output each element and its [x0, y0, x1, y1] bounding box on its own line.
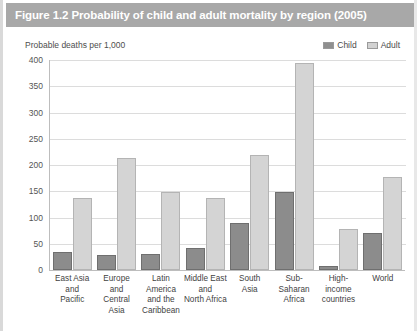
bar-group — [272, 60, 316, 270]
x-category-label-line: countries — [316, 295, 360, 306]
legend-label-adult: Adult — [381, 40, 400, 50]
x-category-label-line: and — [183, 285, 227, 296]
figure-container: Figure 1.2 Probability of child and adul… — [0, 0, 417, 331]
legend-swatch-adult-icon — [367, 42, 378, 49]
bar-group — [228, 60, 272, 270]
y-axis-title: Probable deaths per 1,000 — [25, 40, 125, 50]
bar-adult — [117, 158, 136, 270]
bar-child — [141, 254, 160, 270]
y-tick-label: 200 — [17, 160, 43, 170]
bar-adult — [383, 177, 402, 270]
x-category-label: LatinAmericaand theCaribbean — [139, 274, 183, 316]
y-tick-label: 300 — [17, 108, 43, 118]
bar-groups — [50, 60, 405, 270]
bar-group — [316, 60, 360, 270]
y-tick-label: 50 — [17, 239, 43, 249]
x-category-label-line: America — [139, 285, 183, 296]
x-category-label-line: Middle East — [183, 274, 227, 285]
x-category-label-line: and — [50, 285, 94, 296]
y-tick-label: 350 — [17, 81, 43, 91]
x-category-label-line: Africa — [272, 295, 316, 306]
bar-group — [183, 60, 227, 270]
bar-group — [139, 60, 183, 270]
x-category-label-line: Latin — [139, 274, 183, 285]
bar-child — [363, 233, 382, 270]
x-category-label-line: Asia — [94, 306, 138, 317]
x-category-label-line: World — [361, 274, 405, 285]
y-tick-label: 150 — [17, 186, 43, 196]
legend-swatch-child-icon — [323, 42, 334, 49]
x-category-label-line: Pacific — [50, 295, 94, 306]
x-category-label: Sub-SaharanAfrica — [272, 274, 316, 306]
x-category-label-line: Saharan — [272, 285, 316, 296]
x-category-label-line: Europe — [94, 274, 138, 285]
x-category-label: Middle EastandNorth Africa — [183, 274, 227, 306]
chart-legend: Child Adult — [323, 40, 400, 50]
x-category-label: East AsiaandPacific — [50, 274, 94, 306]
y-tick-label: 0 — [17, 265, 43, 275]
x-category-label-line: income — [316, 285, 360, 296]
x-category-label-line: and the — [139, 295, 183, 306]
x-category-label-line: Asia — [228, 285, 272, 296]
x-category-label: World — [361, 274, 405, 285]
bar-group — [361, 60, 405, 270]
x-category-label-line: North Africa — [183, 295, 227, 306]
x-category-label-line: High- — [316, 274, 360, 285]
x-category-label: EuropeandCentralAsia — [94, 274, 138, 316]
bar-adult — [339, 229, 358, 270]
bar-child — [230, 223, 249, 270]
bar-adult — [206, 198, 225, 270]
bar-adult — [295, 63, 314, 270]
x-category-label: SouthAsia — [228, 274, 272, 295]
x-axis-category-labels: East AsiaandPacificEuropeandCentralAsiaL… — [50, 274, 405, 329]
legend-entry-adult: Adult — [367, 40, 400, 50]
x-category-label-line: Sub- — [272, 274, 316, 285]
x-category-label-line: and — [94, 285, 138, 296]
bar-adult — [73, 198, 92, 270]
y-tick-label: 250 — [17, 134, 43, 144]
figure-title: Figure 1.2 Probability of child and adul… — [6, 9, 367, 21]
x-category-label-line: South — [228, 274, 272, 285]
bar-child — [319, 266, 338, 270]
x-category-label-line: Caribbean — [139, 306, 183, 317]
bar-child — [275, 192, 294, 270]
legend-label-child: Child — [337, 40, 356, 50]
bar-child — [97, 255, 116, 270]
bar-group — [94, 60, 138, 270]
bar-adult — [250, 155, 269, 270]
x-category-label-line: East Asia — [50, 274, 94, 285]
bar-adult — [161, 192, 180, 270]
x-category-label: High-incomecountries — [316, 274, 360, 306]
legend-entry-child: Child — [323, 40, 356, 50]
y-tick-label: 400 — [17, 55, 43, 65]
bar-group — [50, 60, 94, 270]
bar-child — [53, 252, 72, 270]
figure-header-bar: Figure 1.2 Probability of child and adul… — [6, 3, 414, 27]
bar-child — [186, 248, 205, 270]
x-category-label-line: Central — [94, 295, 138, 306]
y-tick-label: 100 — [17, 213, 43, 223]
